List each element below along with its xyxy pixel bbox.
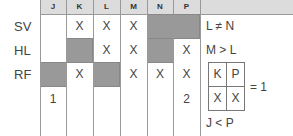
shaded-cell-rf-l bbox=[93, 62, 120, 87]
col-header-l: L bbox=[93, 0, 120, 14]
rule-m-gt-l: M > L bbox=[206, 43, 236, 57]
mini-header-p: P bbox=[226, 62, 245, 87]
cell: X bbox=[147, 67, 173, 81]
cell: X bbox=[66, 19, 93, 33]
cell: X bbox=[93, 19, 120, 33]
col-header-m: M bbox=[120, 0, 147, 14]
col-header-k: K bbox=[66, 0, 93, 14]
cell: X bbox=[120, 43, 147, 57]
shaded-cell-sv-p bbox=[173, 14, 200, 39]
shaded-cell-sv-n bbox=[147, 14, 174, 39]
col-header-n: N bbox=[147, 0, 173, 14]
row-label-rf: RF bbox=[14, 67, 40, 82]
mini-table-result: = 1 bbox=[250, 80, 267, 94]
cell: X bbox=[93, 43, 120, 57]
cell: X bbox=[173, 67, 200, 81]
cell: 2 bbox=[173, 92, 200, 106]
cell: 1 bbox=[40, 92, 66, 106]
cell: X bbox=[120, 19, 147, 33]
cell: X bbox=[66, 67, 93, 81]
cell: X bbox=[173, 43, 200, 57]
col-header-p: P bbox=[173, 0, 200, 14]
row-label-sv: SV bbox=[14, 19, 40, 34]
mini-value-k: X bbox=[208, 86, 227, 111]
row-label-hl: HL bbox=[14, 43, 40, 58]
grid-line bbox=[200, 0, 201, 136]
mini-value-p: X bbox=[226, 86, 245, 111]
shaded-cell-hl-n bbox=[147, 38, 174, 63]
shaded-cell-hl-k bbox=[66, 38, 93, 63]
col-header-j: J bbox=[40, 0, 66, 14]
mini-header-k: K bbox=[208, 62, 227, 87]
cell: X bbox=[120, 67, 147, 81]
rule-j-lt-p: J < P bbox=[206, 116, 234, 130]
grid-line bbox=[40, 0, 41, 136]
rule-l-not-n: L ≠ N bbox=[206, 19, 234, 33]
shaded-cell-rf-j bbox=[40, 62, 67, 87]
